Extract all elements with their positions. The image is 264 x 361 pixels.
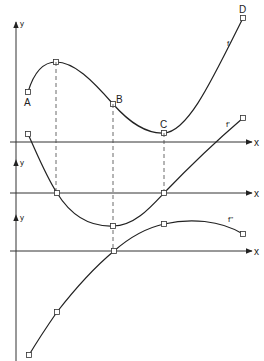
y-axis-label-f: y [20,19,24,28]
curve-f-prime [28,118,243,226]
y-axis-label-f-double-prime: y [20,213,24,222]
curve-label-f: f [227,39,230,48]
curve-label-f-prime: f' [226,120,230,129]
x-axis-label-f-double-prime: x [254,246,259,257]
panel-f-prime: y x f' [10,116,259,229]
curve-f-double-prime [29,221,243,355]
fprime-end-marker [241,116,246,121]
point-C-label: C [160,119,167,130]
point-A-label: A [24,97,31,108]
x-axis-label-f: x [254,137,259,148]
x-axis-label-f-prime: x [254,188,259,199]
fdd-end-marker [241,232,246,237]
fdd-start-marker [27,353,32,358]
fprime-zero-2-marker [162,191,167,196]
point-D-marker [241,16,246,21]
fdd-zero-marker [112,249,117,254]
fdd-point-2-marker [162,222,167,227]
panel-f-double-prime: y x f'' [10,213,259,361]
y-axis-label-f-prime: y [20,158,24,167]
curve-f [28,18,243,133]
derivative-diagram: y x A B C D f y x f' y x [0,0,264,361]
point-A-marker [26,90,31,95]
fprime-zero-1-marker [55,191,60,196]
fdd-point-marker [55,310,60,315]
point-D-label: D [239,4,246,15]
fprime-start-marker [26,132,31,137]
curve-label-f-double-prime: f'' [228,215,234,224]
fprime-min-marker [111,224,116,229]
point-B-label: B [116,94,123,105]
